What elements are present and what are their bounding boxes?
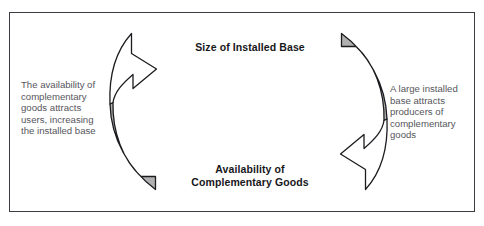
annotation-line: goods bbox=[390, 129, 482, 141]
annotation-line: users, increasing bbox=[21, 114, 117, 126]
label-line: Complementary Goods bbox=[162, 176, 338, 189]
annotation-line: base attracts bbox=[390, 95, 482, 107]
annotation-line: the installed base bbox=[21, 125, 117, 137]
right-annotation: A large installed base attracts producer… bbox=[390, 83, 482, 141]
annotation-line: The availability of bbox=[21, 79, 117, 91]
label-line: Size of Installed Base bbox=[162, 41, 338, 54]
left-annotation: The availability of complementary goods … bbox=[21, 79, 117, 137]
annotation-line: goods attracts bbox=[21, 102, 117, 114]
label-line: Availability of bbox=[162, 163, 338, 176]
node-label-availability-of-complementary-goods: Availability of Complementary Goods bbox=[162, 163, 338, 189]
annotation-line: producers of bbox=[390, 106, 482, 118]
node-label-size-of-installed-base: Size of Installed Base bbox=[162, 41, 338, 54]
annotation-line: A large installed bbox=[390, 83, 482, 95]
annotation-line: complementary bbox=[390, 118, 482, 130]
annotation-line: complementary bbox=[21, 91, 117, 103]
diagram-canvas: Size of Installed Base Availability of C… bbox=[0, 0, 484, 226]
